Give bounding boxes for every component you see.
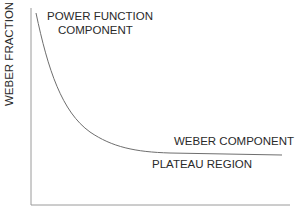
weber-component-label: WEBER COMPONENT bbox=[174, 135, 294, 148]
y-axis-label: WEBER FRACTION bbox=[3, 2, 15, 106]
chart-canvas bbox=[0, 0, 305, 217]
power-function-label-line1: POWER FUNCTION bbox=[47, 10, 153, 23]
plateau-region-label: PLATEAU REGION bbox=[152, 158, 252, 171]
power-function-label-line2: COMPONENT bbox=[58, 24, 133, 37]
